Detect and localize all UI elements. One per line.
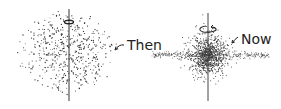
then-label: Then xyxy=(127,38,162,52)
now-disk-galaxy xyxy=(152,14,270,84)
galaxy-formation-diagram: Then Now xyxy=(0,0,281,109)
now-label: Now xyxy=(241,32,272,46)
now-pointer-arrow-icon xyxy=(232,37,238,43)
diagram-canvas xyxy=(0,0,281,109)
